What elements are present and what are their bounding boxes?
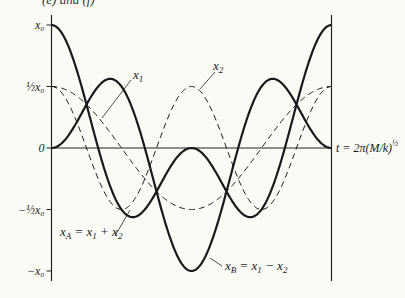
y-tick-label: 0: [39, 141, 45, 155]
label-xA: xA = x1 + x2: [59, 224, 123, 241]
arrow-x2: [200, 72, 215, 89]
arrow-x1: [102, 80, 131, 118]
arrow-xB: [210, 258, 222, 266]
label-x2: x2: [212, 58, 224, 75]
y-tick-label: ½x₀: [26, 80, 45, 94]
y-tick-label: −x₀: [27, 264, 45, 278]
y-ticks: x₀½x₀0−½x₀−x₀: [18, 18, 52, 278]
annotations: x1 x2 xA = x1 + x2 xB = x1 − x2 t = 2π(M…: [59, 58, 398, 275]
chart-plot: x₀½x₀0−½x₀−x₀ x1 x2 xA = x1 + x2 xB = x1…: [0, 0, 405, 298]
y-tick-label: −½x₀: [18, 203, 45, 217]
x-end-label: t = 2π(M/k)½: [336, 139, 398, 155]
label-x1: x1: [132, 67, 143, 84]
label-xB: xB = x1 − x2: [224, 258, 288, 275]
curve-xB: [52, 79, 332, 271]
curve-xA: [52, 25, 332, 217]
arrow-xA: [115, 210, 130, 236]
y-tick-label: x₀: [34, 18, 45, 32]
